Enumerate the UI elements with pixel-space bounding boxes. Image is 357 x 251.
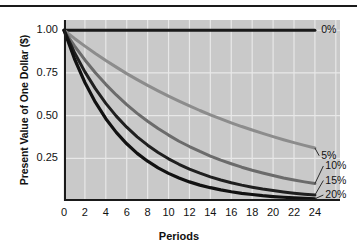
y-tick-label: 1.00 xyxy=(18,23,58,35)
series-label-10pct: 10% xyxy=(325,159,346,171)
leader-line-10pct xyxy=(315,166,323,184)
y-tick-label: 0.25 xyxy=(18,151,58,163)
y-tick-label: 0.75 xyxy=(18,66,58,78)
series-label-0pct: 0% xyxy=(321,23,336,35)
leader-line-5pct xyxy=(315,148,319,156)
x-tick-label: 16 xyxy=(221,206,241,218)
x-axis-title: Periods xyxy=(64,230,294,242)
x-tick-label: 12 xyxy=(179,206,199,218)
chart-figure: Present Value of One Dollar ($) 1.000.75… xyxy=(0,0,357,251)
x-tick-label: 24 xyxy=(305,206,325,218)
x-tick-label: 22 xyxy=(284,206,304,218)
x-tick-label: 6 xyxy=(117,206,137,218)
series-label-15pct: 15% xyxy=(325,174,346,186)
plot-canvas xyxy=(64,20,340,201)
x-tick-label: 4 xyxy=(96,206,116,218)
series-label-20pct: 20% xyxy=(325,188,346,200)
plot-area xyxy=(64,20,340,201)
x-tick-label: 18 xyxy=(242,206,262,218)
x-tick-label: 10 xyxy=(159,206,179,218)
leader-line-15pct xyxy=(315,181,323,196)
header-rule xyxy=(0,5,357,7)
y-tick-label: 0.50 xyxy=(18,109,58,121)
x-tick-label: 14 xyxy=(200,206,220,218)
x-tick-label: 2 xyxy=(75,206,95,218)
y-axis-line xyxy=(64,20,66,201)
x-tick-label: 20 xyxy=(263,206,283,218)
x-tick-label: 0 xyxy=(54,206,74,218)
x-tick-label: 8 xyxy=(138,206,158,218)
x-axis-line xyxy=(64,199,340,201)
